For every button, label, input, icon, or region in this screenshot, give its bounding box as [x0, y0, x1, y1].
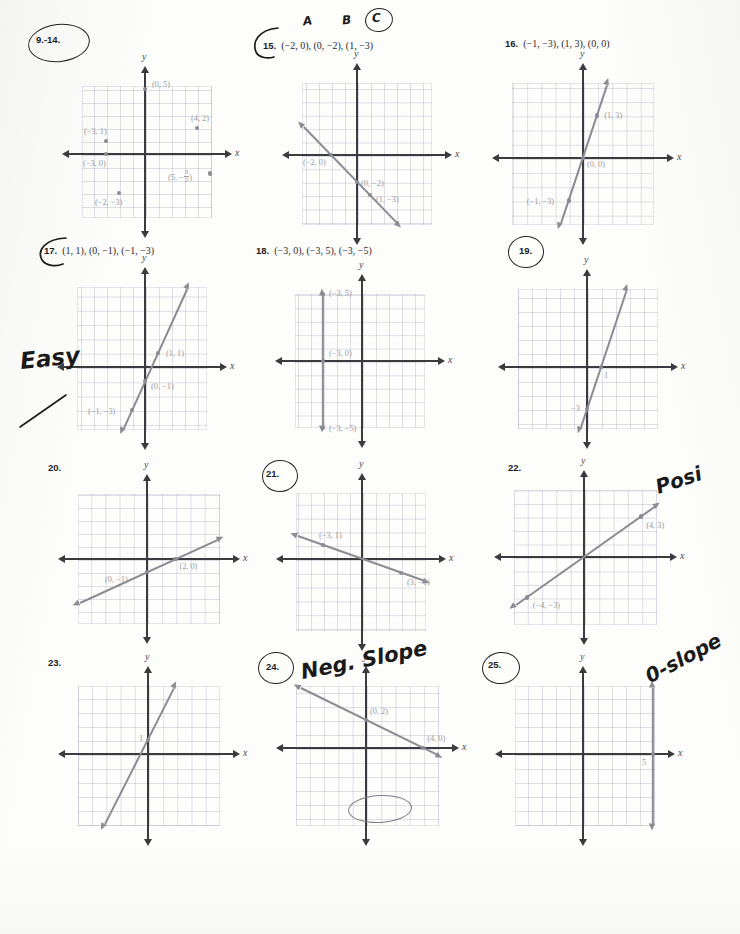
handwritten-letter-a: A [302, 13, 313, 28]
x-axis-right-arrow-icon [668, 750, 675, 758]
worksheet-page: 9.-14.xy(0, 5)(4, 2)(−3, 1)(−3, 0)(5, −3… [0, 0, 740, 934]
handwritten-stroke-under-easy [18, 393, 70, 429]
handwritten-letter-b: B [341, 13, 352, 28]
graph-25: xy5 [515, 686, 655, 826]
problem-25: 25.xy5 [0, 0, 740, 934]
x-axis-left-arrow-icon [495, 750, 502, 758]
x-axis-label-25: x [678, 747, 682, 758]
point-label: 5 [642, 758, 646, 767]
x-axis-25 [501, 753, 669, 755]
y-axis-25 [582, 672, 584, 840]
y-axis-down-arrow-icon [579, 839, 587, 846]
y-axis-label-25: y [580, 651, 584, 662]
handwritten-arc-15 [252, 26, 282, 58]
y-axis-up-arrow-icon [579, 666, 587, 673]
coordinate-grid-25 [515, 686, 655, 826]
handwritten-arc-17 [36, 236, 70, 266]
plotted-line-25-arrow-icon-1 [649, 823, 655, 830]
